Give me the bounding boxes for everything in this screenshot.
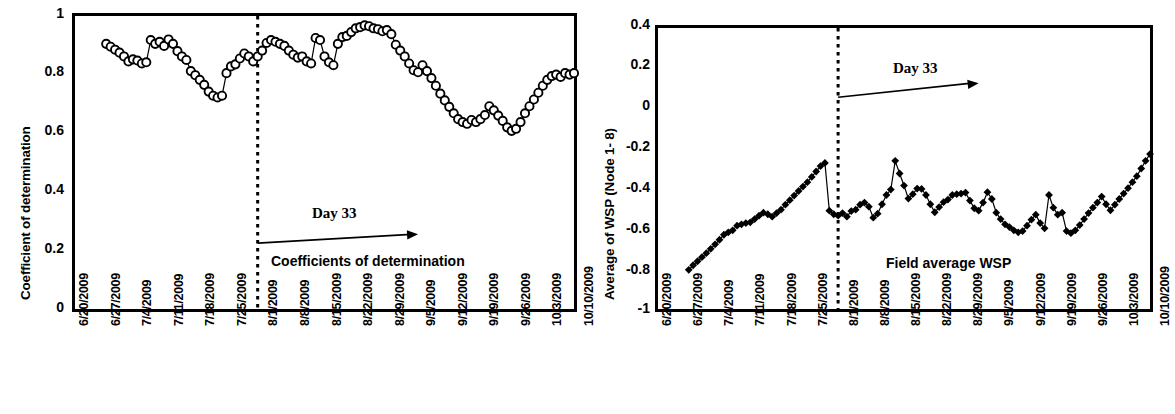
day-33-arrow [838,80,979,97]
x-tick-label: 8/8/2009 [878,280,892,326]
panel-caption: Coefficients of determination [271,253,465,269]
data-point-marker [182,56,190,64]
panel-caption: Field average WSP [886,255,1011,271]
x-tick-label: 7/18/2009 [203,273,217,326]
x-tick-label: 10/10/2009 [1158,266,1172,326]
y-tick-label: 1 [28,5,64,21]
chart-panel-coefficient-of-determination: Coefficient of determination 1 0.8 0.6 0… [0,0,600,414]
x-tick-label: 8/22/2009 [940,273,954,326]
data-point-marker [387,30,395,38]
y-tick-label: 0.6 [28,122,64,138]
data-point-marker [1102,200,1110,208]
data-point-marker [142,58,150,66]
y-tick-label: 0 [28,299,64,315]
y-tick-label: 0.4 [28,181,64,197]
y-tick-label: -0.2 [612,138,650,154]
x-tick-label: 10/3/2009 [550,273,564,326]
data-point-marker [878,200,886,208]
data-point-marker [218,92,226,100]
chart-panel-field-average-wsp: Average of WSP (Node 1- 8) 0.4 0.2 0 -0.… [588,0,1175,414]
data-point-marker [891,157,899,165]
data-point-marker [329,61,337,69]
y-tick-label: -0.4 [612,179,650,195]
y-tick-label: -0.8 [612,261,650,277]
y-axis-title: Coefficient of determination [18,126,33,300]
x-tick-label: 9/26/2009 [519,273,533,326]
x-tick-label: 6/27/2009 [109,273,123,326]
data-point-marker [1137,165,1145,173]
x-tick-label: 9/19/2009 [1065,273,1079,326]
data-point-marker [516,118,524,126]
data-point-marker [307,59,315,67]
data-point-marker [992,209,1000,217]
data-point-marker [570,69,578,77]
x-tick-label: 9/5/2009 [1002,280,1016,326]
data-point-marker [1045,191,1053,199]
data-point-marker [1146,150,1154,158]
x-tick-label: 9/19/2009 [487,273,501,326]
x-tick-label: 8/15/2009 [909,273,923,326]
x-tick-label: 7/11/2009 [753,274,767,326]
data-point-marker [900,182,908,190]
x-tick-label: 8/8/2009 [298,280,312,326]
y-tick-label: -1 [612,300,650,316]
x-tick-label: 9/12/2009 [456,273,470,326]
data-point-marker [979,199,987,207]
data-point-marker [1049,204,1057,212]
data-point-marker [984,188,992,196]
data-point-marker [988,195,996,203]
x-tick-label: 6/27/2009 [691,273,705,326]
day-33-arrow [258,230,418,243]
data-point-marker [316,36,324,44]
x-tick-label: 7/25/2009 [816,273,830,326]
day-33-annotation-label: Day 33 [893,60,938,77]
series-line [689,154,1150,270]
x-tick-label: 7/18/2009 [785,273,799,326]
x-tick-label: 8/29/2009 [393,273,407,326]
x-tick-label: 7/25/2009 [235,273,249,326]
x-tick-label: 9/26/2009 [1096,273,1110,326]
y-tick-label: 0.4 [612,16,650,32]
y-tick-label: 0.2 [612,56,650,72]
y-tick-label: 0 [612,97,650,113]
x-tick-label: 7/4/2009 [140,280,154,326]
y-tick-label: 0.2 [28,240,64,256]
x-tick-label: 8/29/2009 [971,273,985,326]
x-tick-label: 8/15/2009 [330,273,344,326]
x-tick-label: 6/20/2009 [660,273,674,326]
x-tick-label: 8/1/2009 [847,280,861,326]
figure-two-panel-timeseries: Coefficient of determination 1 0.8 0.6 0… [0,0,1175,414]
x-tick-label: 10/3/2009 [1127,273,1141,326]
y-tick-label: 0.8 [28,63,64,79]
x-tick-label: 8/1/2009 [266,280,280,326]
data-point-marker [926,200,934,208]
x-tick-label: 6/20/2009 [77,273,91,326]
data-point-marker [481,111,489,119]
data-point-marker [432,82,440,90]
data-point-marker [966,197,974,205]
day-33-annotation-label: Day 33 [312,205,357,222]
x-tick-label: 8/22/2009 [361,273,375,326]
x-tick-label: 9/12/2009 [1034,273,1048,326]
x-tick-label: 7/4/2009 [722,280,736,326]
x-tick-label: 7/11/2009 [172,274,186,326]
y-tick-label: -0.6 [612,220,650,236]
data-point-marker [896,170,904,178]
x-tick-label: 9/5/2009 [424,280,438,326]
data-point-marker [1142,157,1150,165]
